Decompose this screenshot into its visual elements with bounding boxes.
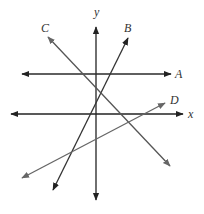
line-c <box>48 37 170 166</box>
line-c-label: C <box>41 21 50 35</box>
line-a-label: A <box>174 67 183 81</box>
x-axis-label: x <box>187 107 194 121</box>
line-b-label: B <box>124 21 132 35</box>
coordinate-diagram: x y A B C D <box>0 0 204 214</box>
line-d-label: D <box>169 93 179 107</box>
diagram-svg: x y A B C D <box>0 0 204 214</box>
y-axis-label: y <box>93 5 100 19</box>
